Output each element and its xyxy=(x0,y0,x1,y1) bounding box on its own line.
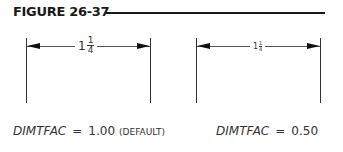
extension-line-right xyxy=(150,38,151,103)
caption-note: (DEFAULT) xyxy=(119,127,165,137)
dimension-text: 1 1 4 xyxy=(250,41,265,52)
dimension-fraction: 1 4 xyxy=(87,36,95,55)
caption-value: 1.00 xyxy=(88,124,115,138)
caption-variable: DIMTFAC xyxy=(13,124,66,138)
caption-variable: DIMTFAC xyxy=(216,124,269,138)
dimension-fraction: 1 4 xyxy=(259,41,262,52)
caption-equals: = xyxy=(275,124,285,138)
caption-half: DIMTFAC=0.50 xyxy=(216,124,318,138)
arrowhead-left-icon xyxy=(27,43,40,49)
figure-title-rule xyxy=(106,12,325,14)
fraction-denominator: 4 xyxy=(88,46,94,55)
figure-title: FIGURE 26-37 xyxy=(13,4,109,19)
dimension-whole: 1 xyxy=(253,42,258,51)
fraction-denominator: 4 xyxy=(259,47,262,52)
caption-default: DIMTFAC=1.00(DEFAULT) xyxy=(13,124,165,138)
caption-equals: = xyxy=(72,124,82,138)
dimension-text: 1 1 4 xyxy=(75,36,97,55)
arrowhead-right-icon xyxy=(137,43,150,49)
arrowhead-right-icon xyxy=(307,43,320,49)
dimension-whole: 1 xyxy=(78,39,86,53)
arrowhead-left-icon xyxy=(197,43,210,49)
extension-line-right xyxy=(320,38,321,103)
caption-value: 0.50 xyxy=(291,124,318,138)
